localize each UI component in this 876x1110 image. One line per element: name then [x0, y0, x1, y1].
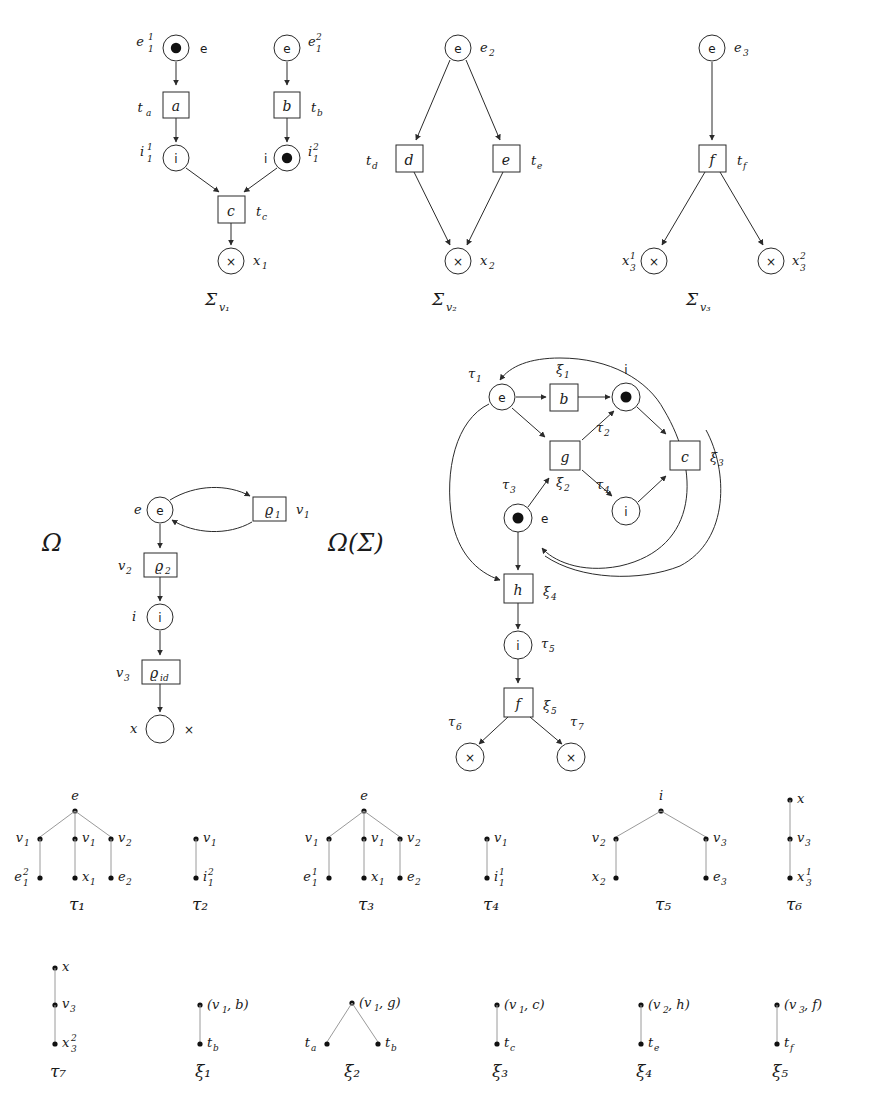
tau1-caption: τ₁ — [69, 894, 85, 914]
transition-tc-label-sub: c — [262, 212, 267, 222]
omsig-place-e-mid[interactable]: e τ 3 — [502, 477, 548, 532]
omega-transition-rhoid-glyph: ϱ — [150, 665, 159, 681]
transition-tc-glyph: c — [227, 203, 235, 219]
omega-place-x[interactable]: x × — [130, 715, 194, 743]
tau3-leaf1-sub: 1 — [312, 878, 318, 888]
transition-te-label-sub: e — [537, 161, 542, 171]
omega-title: Ω — [41, 529, 62, 557]
tau7-node2-sub: 3 — [70, 1004, 76, 1014]
arc-te-to-x2 — [467, 172, 503, 245]
xi5-node1-label: (v — [784, 997, 797, 1012]
tree-tau7: x v 3 x 2 3 τ₇ — [50, 959, 77, 1081]
arc-outer-to-h — [452, 520, 500, 580]
transition-td-glyph: d — [405, 152, 414, 168]
tau3-root-label: e — [360, 788, 368, 803]
transition-te[interactable]: e t e — [493, 145, 542, 172]
tau1-leaf3-sub: 2 — [125, 877, 132, 887]
transition-td[interactable]: d t d — [366, 145, 423, 172]
tau5-leaf2-dot — [703, 875, 708, 880]
omsig-transition-c[interactable]: c ξ 3 — [670, 441, 724, 470]
arc-f-to-x-left — [479, 717, 508, 744]
xi4-node1-rest: , h) — [668, 997, 690, 1012]
omsig-place-e-top[interactable]: e τ 1 — [468, 366, 515, 410]
tree-xi5: (v 3 , f) t f ξ₅ — [772, 997, 822, 1081]
place-x3-2-glyph: × — [766, 255, 776, 269]
arc-tf-to-x3-1 — [662, 172, 705, 245]
xi5-caption: ξ₅ — [772, 1061, 788, 1081]
omsig-place-i-low[interactable]: i τ 4 — [596, 477, 640, 525]
place-x2[interactable]: × x 2 — [445, 248, 495, 274]
figure-svg: e 1 1 e a t a i i 1 1 e e 2 1 — [0, 0, 876, 1110]
tau3-caption: τ₃ — [358, 894, 374, 914]
tree-tau3: e v 1 v 1 v 2 e 1 1 x 1 e 2 τ₃ — [303, 788, 421, 914]
tree-xi4: (v 2 , h) t e ξ₄ — [636, 997, 690, 1081]
omega-transition-rho1[interactable]: ϱ 1 v 1 — [253, 497, 310, 521]
place-x1[interactable]: × x 1 — [218, 248, 268, 274]
omsig-transition-b[interactable]: b ξ 1 — [550, 362, 578, 411]
tau3-child1-sub: 1 — [313, 838, 319, 848]
omega-transition-rho2[interactable]: ϱ 2 v 2 — [118, 553, 177, 577]
omega-transition-rhoid[interactable]: ϱ id v 3 — [116, 660, 180, 684]
omsig-tau7-sub: 7 — [578, 722, 584, 732]
omega-sigma-title: Ω(Σ) — [327, 529, 384, 557]
transition-tb[interactable]: b t b — [274, 92, 323, 118]
omega-diagram: Ω e e ϱ 1 v 1 ϱ 2 v 2 i — [41, 487, 310, 743]
place-e1-2-sup: 2 — [315, 32, 322, 42]
place-e3-glyph: e — [708, 42, 715, 56]
place-x3-1-label: x — [622, 253, 630, 268]
omega-place-e[interactable]: e e — [134, 497, 173, 523]
omsig-place-x-left[interactable]: × τ 6 — [448, 714, 484, 771]
omega-place-i[interactable]: i i — [132, 604, 173, 630]
tau2-caption: τ₂ — [192, 894, 208, 914]
tau2-node2-label: i — [203, 869, 207, 884]
tree-xi1: (v 1 , b) t b ξ₁ — [195, 997, 249, 1081]
tau5-leaf1-sub: 2 — [599, 877, 606, 887]
arc-i1-2-to-tc — [244, 168, 277, 192]
transition-tf[interactable]: f t f — [699, 145, 748, 172]
caption-sigma-v3-sub: v₃ — [700, 301, 711, 314]
place-x3-1[interactable]: × x 1 3 — [622, 248, 667, 274]
place-i1-2-sub: 1 — [313, 154, 319, 164]
omsig-transition-b-glyph: b — [560, 391, 569, 407]
omsig-xi5-label: ξ — [543, 698, 551, 713]
tau2-node2-dot — [193, 875, 198, 880]
tau3-child3-label: v — [407, 830, 415, 845]
place-e1-2-sub: 1 — [316, 44, 322, 54]
omsig-place-i-chain[interactable]: i τ 5 — [504, 631, 555, 659]
omega-transition-rho2-glyph: ϱ — [155, 558, 164, 574]
omsig-xi2-label: ξ — [556, 475, 564, 490]
place-e1-2[interactable]: e e 2 1 — [274, 32, 322, 61]
omsig-transition-h[interactable]: h ξ 4 — [504, 574, 557, 603]
omsig-place-x-right[interactable]: × τ 7 — [557, 714, 585, 771]
transition-tc[interactable]: c t c — [218, 196, 267, 223]
xi2-leaf2-dot — [375, 1041, 380, 1046]
xi1-node1-label: (v — [207, 997, 220, 1012]
place-i1-1[interactable]: i i 1 1 — [140, 142, 189, 171]
omsig-xi3-label: ξ — [710, 450, 718, 465]
place-e1-1[interactable]: e 1 1 e — [136, 32, 207, 61]
tau5-child1-sub: 2 — [599, 838, 606, 848]
place-x3-2[interactable]: × x 2 3 — [758, 248, 806, 274]
place-i1-2[interactable]: i i 2 1 — [264, 142, 319, 171]
place-x3-2-sub: 3 — [800, 263, 806, 273]
place-e3[interactable]: e e 3 — [699, 35, 749, 61]
arc-td-to-x2 — [414, 172, 450, 245]
xi2-root-label: (v — [359, 995, 372, 1010]
tau2-node1-label: v — [203, 830, 211, 845]
place-e2-label: e — [480, 40, 488, 55]
transition-ta[interactable]: a t a — [137, 92, 189, 118]
omega-place-x-glyph: × — [184, 723, 194, 737]
omsig-tau4-label: τ — [596, 477, 604, 492]
omsig-tau3-label: τ — [502, 477, 510, 492]
place-i1-1-sub: 1 — [147, 154, 153, 164]
tau1-leaf1-dot — [37, 875, 42, 880]
place-e2[interactable]: e e 2 — [445, 35, 495, 61]
omega-transition-rho1-glyph-sub: 1 — [275, 510, 281, 520]
omsig-transition-g[interactable]: g ξ 2 — [550, 441, 580, 493]
arc-i-low-to-c — [638, 476, 666, 502]
omsig-place-i-top[interactable]: i — [612, 363, 640, 411]
omsig-transition-f[interactable]: f ξ 5 — [504, 688, 557, 717]
tau5-leaf2-label: e — [713, 869, 721, 884]
xi1-node1-rest: , b) — [227, 997, 249, 1012]
caption-sigma-v1: Σ v₁ — [204, 289, 230, 314]
